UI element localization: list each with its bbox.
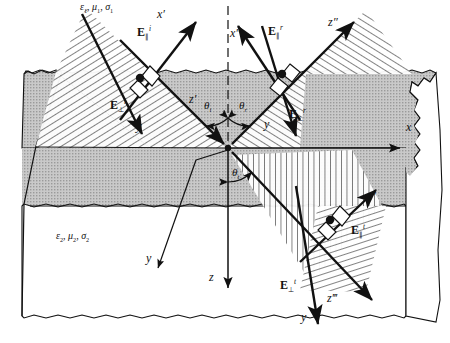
reflected-E-parallel-label: E∥r: [268, 24, 283, 40]
origin-dot: [225, 145, 231, 151]
reflected-z-axis-label: z″: [328, 16, 338, 28]
figure-canvas: ε1, μ1, σ1 ε2, μ2, σ2 x z θi θr θt x′ z′…: [0, 0, 450, 343]
theta-r-label: θr: [239, 100, 247, 114]
medium-2-label: ε2, μ2, σ2: [56, 231, 89, 243]
axis-x-label: x: [406, 121, 411, 133]
transmitted-z-axis-label: z‴: [327, 292, 337, 304]
incident-x-axis-label: x′: [157, 8, 165, 20]
incident-z-axis-label: z′: [189, 93, 196, 105]
incident-E-parallel-label: E∥i: [137, 25, 151, 41]
axis-z-label: z: [209, 271, 214, 283]
reflected-y-axis-label: y: [264, 118, 269, 130]
incident-E-perp-label: E⊥i: [110, 98, 126, 114]
theta-i-label: θi: [204, 100, 211, 114]
transmitted-y-axis-label: y: [301, 311, 306, 323]
diagram-svg: [0, 0, 450, 343]
transmitted-origin-dot: [326, 216, 334, 224]
reflected-E-perp-label: E⊥r: [289, 107, 306, 123]
reflected-origin-dot: [278, 70, 286, 78]
theta-t-label: θt: [232, 167, 239, 181]
transmitted-E-parallel-label: E∥t: [351, 223, 365, 239]
reflected-x-axis-label: x″: [230, 27, 240, 39]
transmitted-x-axis-label: x‴: [365, 190, 375, 202]
medium-1-label: ε1, μ1, σ1: [80, 2, 113, 14]
incident-y-axis-label: y: [136, 120, 141, 132]
incident-origin-dot: [136, 74, 144, 82]
global-y-axis-label: y: [146, 252, 151, 264]
transmitted-E-perp-label: E⊥t: [280, 278, 296, 294]
